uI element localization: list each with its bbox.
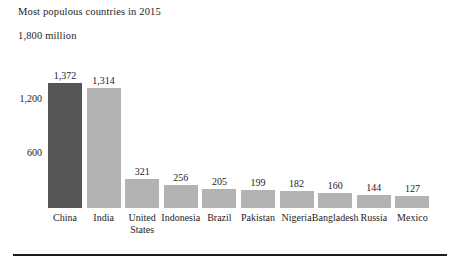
bar-value-label: 256 bbox=[173, 172, 188, 183]
bar-value-label: 205 bbox=[212, 176, 227, 187]
bar-group: 205 bbox=[202, 0, 236, 208]
x-axis-category-label: Indonesia bbox=[161, 212, 200, 224]
bar-value-label: 321 bbox=[135, 166, 150, 177]
bar-group: 321 bbox=[125, 0, 159, 208]
x-axis-category-label: Russia bbox=[360, 212, 387, 224]
bar-rect[interactable] bbox=[125, 179, 159, 208]
bar-value-label: 144 bbox=[366, 182, 381, 193]
bar-value-label: 160 bbox=[328, 180, 343, 191]
x-axis-category-label: India bbox=[93, 212, 114, 224]
bar-rect[interactable] bbox=[318, 193, 352, 208]
bar-value-label: 127 bbox=[405, 183, 420, 194]
bar-rect[interactable] bbox=[48, 83, 82, 208]
x-axis-category-label: Bangladesh bbox=[312, 212, 359, 224]
bar-group: 127 bbox=[395, 0, 429, 208]
bottom-rule bbox=[13, 254, 447, 256]
bar-group: 182 bbox=[280, 0, 314, 208]
bar-value-label: 1,372 bbox=[54, 70, 77, 81]
bar-value-label: 182 bbox=[289, 178, 304, 189]
bar-group: 1,372 bbox=[48, 0, 82, 208]
bar-rect[interactable] bbox=[202, 189, 236, 208]
bar-rect[interactable] bbox=[241, 190, 275, 208]
bar-rect[interactable] bbox=[395, 196, 429, 208]
bar-group: 256 bbox=[164, 0, 198, 208]
bar-chart-figure: Most populous countries in 2015 1,800 mi… bbox=[0, 0, 459, 265]
x-axis-category-label: Mexico bbox=[397, 212, 428, 224]
bar-group: 1,314 bbox=[87, 0, 121, 208]
x-axis-category-label: Pakistan bbox=[241, 212, 275, 224]
bar-rect[interactable] bbox=[164, 185, 198, 208]
bar-group: 144 bbox=[357, 0, 391, 208]
x-axis-category-label: United States bbox=[122, 212, 162, 235]
bar-rect[interactable] bbox=[87, 88, 121, 208]
bar-group: 160 bbox=[318, 0, 352, 208]
bar-rect[interactable] bbox=[357, 195, 391, 208]
bar-value-label: 1,314 bbox=[92, 75, 115, 86]
bar-value-label: 199 bbox=[251, 177, 266, 188]
y-axis-tick-label: 600 bbox=[0, 147, 42, 158]
x-axis-category-label: Nigeria bbox=[282, 212, 312, 224]
plot-area: 1,2006001,372China1,314India321United St… bbox=[0, 0, 459, 265]
x-axis-category-label: China bbox=[53, 212, 77, 224]
bar-rect[interactable] bbox=[280, 191, 314, 208]
bar-group: 199 bbox=[241, 0, 275, 208]
x-axis-category-label: Brazil bbox=[207, 212, 231, 224]
y-axis-tick-label: 1,200 bbox=[0, 93, 42, 104]
